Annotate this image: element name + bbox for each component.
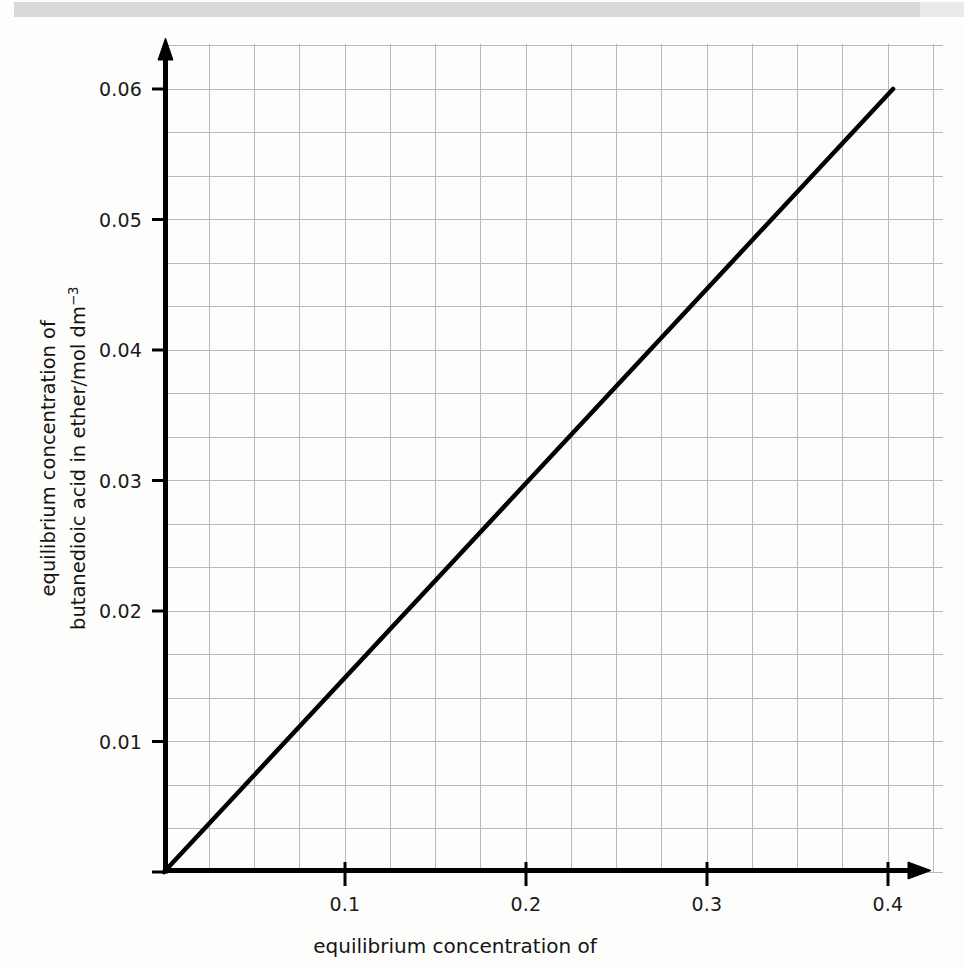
chart-figure: 0.06 0.05 0.04 0.03 0.02 0.01 0.1 0.2 0.… [0,0,964,967]
x-axis-title: equilibrium concentration of [313,934,597,958]
y-axis-title-line-2-text: butanedioic acid in ether/mol dm [67,306,90,630]
x-tick-label-0.4: 0.4 [873,893,904,915]
plot-canvas [0,0,964,967]
x-tick-label-0.3: 0.3 [692,893,723,915]
x-axis-arrowhead [908,862,931,879]
y-axis-title-line-1: equilibrium concentration of [34,286,64,629]
y-tick-label-0.01: 0.01 [80,731,142,753]
y-axis-title: equilibrium concentration of butanedioic… [34,286,94,629]
x-tick-label-0.2: 0.2 [511,893,542,915]
y-tick-label-0.06: 0.06 [80,78,142,100]
x-tick-label-0.1: 0.1 [330,893,361,915]
y-tick-label-0.05: 0.05 [80,209,142,231]
y-axis-arrowhead [158,38,173,60]
y-axis-title-line-2: butanedioic acid in ether/mol dm−3 [64,286,94,629]
y-axis-title-superscript: −3 [66,286,81,306]
